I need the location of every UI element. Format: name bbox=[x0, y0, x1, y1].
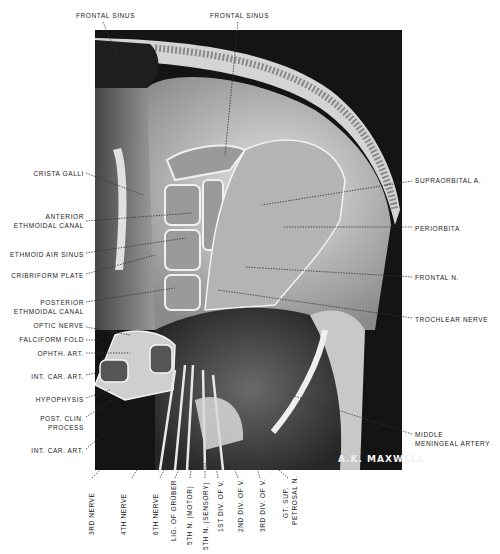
label-5th-n-motor: 5TH N. (MOTOR) bbox=[186, 486, 194, 545]
label-falciform-fold: FALCIFORM FOLD bbox=[19, 335, 84, 344]
label-optic-nerve: OPTIC NERVE bbox=[33, 321, 84, 330]
label-frontal-sinus-right: FRONTAL SINUS bbox=[210, 11, 269, 20]
label-frontal-n: FRONTAL N. bbox=[415, 273, 459, 282]
label-int-car-art-lower: INT. CAR. ART. bbox=[31, 446, 84, 455]
label-frontal-sinus-left: FRONTAL SINUS bbox=[76, 11, 135, 20]
label-1st-div-of-v: 1ST DIV. OF V. bbox=[217, 480, 225, 532]
label-anterior-ethmoidal-canal-2: ETHMOIDAL CANAL bbox=[14, 221, 84, 230]
label-periorbita: PERIORBITA bbox=[415, 224, 460, 233]
label-crista-galli: CRISTA GALLI bbox=[34, 169, 84, 178]
label-trochlear-nerve: TROCHLEAR NERVE bbox=[415, 315, 488, 324]
leader-3rd-nerve bbox=[92, 470, 100, 478]
label-post-clin-process-2: PROCESS bbox=[48, 423, 84, 432]
label-int-car-art-upper: INT. CAR. ART. bbox=[31, 372, 84, 381]
label-lig-of-gruber: LIG. OF GRÜBER bbox=[170, 480, 178, 541]
label-6th-nerve: 6TH NERVE bbox=[152, 493, 160, 535]
label-middle-meningeal-artery-2: MENINGEAL ARTERY bbox=[415, 439, 490, 448]
label-gt-sup-petrosal-n-1: GT. SUP. bbox=[282, 487, 290, 518]
label-anterior-ethmoidal-canal-1: ANTERIOR bbox=[46, 212, 84, 221]
label-posterior-ethmoidal-canal-2: ETHMOIDAL CANAL bbox=[14, 307, 84, 316]
label-hypophysis: HYPOPHYSIS bbox=[36, 395, 84, 404]
label-supraorbital-a: SUPRAORBITAL A. bbox=[415, 176, 481, 185]
label-3rd-nerve: 3RD NERVE bbox=[88, 493, 96, 536]
label-gt-sup-petrosal-n-2: PETROSAL N. bbox=[291, 476, 299, 525]
label-2nd-div-of-v: 2ND DIV. OF V. bbox=[237, 479, 245, 532]
artist-signature: A.K. MAXWELL bbox=[338, 454, 424, 464]
label-3rd-div-of-v: 3RD DIV. OF V. bbox=[259, 479, 267, 532]
label-post-clin-process-1: POST. CLIN. bbox=[40, 414, 84, 423]
frontal-sinus-cavity bbox=[95, 40, 158, 88]
anatomical-illustration bbox=[95, 30, 402, 470]
label-ophth-art: OPHTH. ART. bbox=[37, 349, 84, 358]
label-middle-meningeal-artery-1: MIDDLE bbox=[415, 430, 443, 439]
label-ethmoid-air-sinus: ETHMOID AIR SINUS bbox=[10, 250, 84, 259]
label-cribriform-plate: CRIBRIFORM PLATE bbox=[11, 271, 84, 280]
label-5th-n-sensory: 5TH N. (SENSORY) bbox=[202, 482, 210, 550]
label-posterior-ethmoidal-canal-1: POSTERIOR bbox=[40, 298, 84, 307]
label-4th-nerve: 4TH NERVE bbox=[120, 493, 128, 535]
